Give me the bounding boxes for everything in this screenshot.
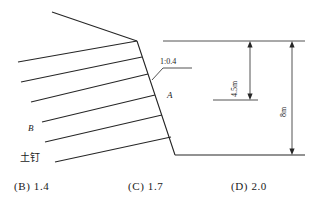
- dimension-line-8m: [289, 41, 294, 155]
- arrowhead-up-icon: [289, 41, 294, 48]
- answer-option-d[interactable]: (D) 2.0: [231, 180, 267, 192]
- soil-nail-line: [45, 115, 162, 142]
- dimension-label-8m: 8m: [279, 107, 288, 117]
- slope-ratio-label: 1:0.4: [160, 58, 176, 66]
- arrowhead-down-icon: [289, 149, 294, 156]
- slope-ratio-leader-line: [152, 68, 192, 80]
- soil-nail-line: [21, 57, 142, 82]
- soil-nail-label: 土钉: [20, 153, 40, 163]
- answer-options-row: (B) 1.4 (C) 1.7 (D) 2.0: [0, 176, 316, 209]
- answer-option-c[interactable]: (C) 1.7: [128, 180, 163, 192]
- question-figure-page: 1:0.4 A B 土钉 4.5m 8m (B) 1.4 (C) 1.7 (D)…: [0, 0, 316, 209]
- point-b-label: B: [28, 124, 34, 133]
- soil-nail-group: [18, 41, 171, 162]
- arrowhead-down-icon: [247, 94, 252, 101]
- point-a-label: A: [167, 91, 173, 100]
- dimension-line-4_5m: [247, 41, 252, 100]
- excavation-section-drawing: [0, 0, 316, 176]
- soil-nail-line: [42, 95, 155, 122]
- soil-nail-line: [18, 41, 137, 62]
- soil-nail-line: [31, 74, 148, 102]
- soil-nail-line: [55, 137, 171, 162]
- ground-surface-line: [52, 12, 137, 41]
- arrowhead-up-icon: [247, 41, 252, 48]
- dimension-label-4_5m: 4.5m: [230, 81, 239, 97]
- answer-option-b[interactable]: (B) 1.4: [14, 180, 49, 192]
